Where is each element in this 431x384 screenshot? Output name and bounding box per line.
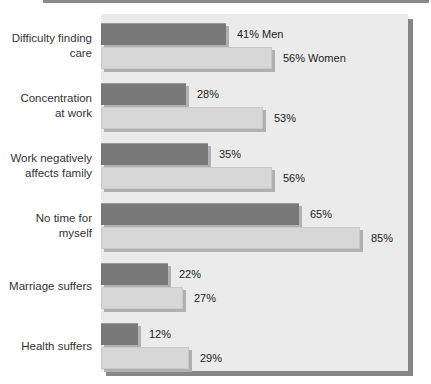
figure: Difficulty findingcare41% Men56% WomenCo… (0, 0, 431, 384)
bar-value-label: 56% (283, 171, 305, 185)
women-bar (101, 227, 360, 249)
bar-value-label: 41% Men (237, 27, 283, 41)
category-label: Marriage suffers (0, 261, 92, 311)
bar-chart: Difficulty findingcare41% Men56% WomenCo… (0, 0, 431, 384)
category-label-line: Work negatively (10, 152, 92, 164)
bar-value-label: 53% (274, 111, 296, 125)
men-bar (101, 143, 208, 165)
men-bar (101, 263, 168, 285)
category-label: No time formyself (0, 201, 92, 251)
men-bar (101, 323, 138, 345)
bar-value-label: 12% (149, 327, 171, 341)
category-label: Health suffers (0, 321, 92, 371)
women-bar (101, 47, 272, 69)
bar-value-label: 22% (179, 267, 201, 281)
category-label-line: Marriage suffers (9, 280, 92, 292)
men-bar (101, 23, 226, 45)
women-bar (101, 287, 183, 309)
category-label-line: myself (59, 227, 92, 239)
category-label: Work negativelyaffects family (0, 141, 92, 191)
category-label-line: affects family (25, 167, 92, 179)
women-bar (101, 167, 272, 189)
category-label: Difficulty findingcare (0, 21, 92, 71)
category-label-line: Health suffers (21, 340, 92, 352)
men-bar (101, 83, 186, 105)
bar-value-label: 28% (197, 87, 219, 101)
bar-value-label: 29% (200, 351, 222, 365)
bar-value-label: 56% Women (283, 51, 346, 65)
bar-value-label: 85% (371, 231, 393, 245)
women-bar (101, 347, 189, 369)
category-label-line: care (70, 47, 92, 59)
bar-value-label: 65% (310, 207, 332, 221)
category-label-line: Difficulty finding (12, 32, 92, 44)
men-bar (101, 203, 299, 225)
bar-value-label: 35% (219, 147, 241, 161)
women-bar (101, 107, 263, 129)
category-label-line: Concentration (20, 92, 92, 104)
bar-value-label: 27% (194, 291, 216, 305)
category-label-line: No time for (36, 212, 92, 224)
category-label-line: at work (55, 107, 92, 119)
category-label: Concentrationat work (0, 81, 92, 131)
